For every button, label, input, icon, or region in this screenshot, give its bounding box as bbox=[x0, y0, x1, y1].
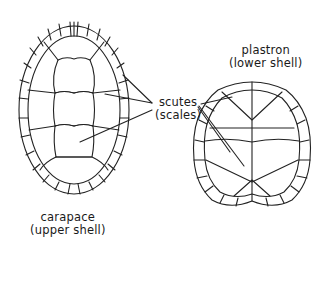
vertebral-scutes bbox=[40, 42, 108, 170]
plastron-label: plastron (lower shell) bbox=[229, 44, 302, 70]
marginal-scutes bbox=[19, 22, 129, 194]
plastron-drawing bbox=[194, 82, 311, 206]
carapace-drawing bbox=[19, 22, 129, 194]
scales-text: (scales) bbox=[155, 109, 201, 122]
costal-scutes bbox=[28, 90, 120, 130]
carapace-label: carapace (upper shell) bbox=[30, 211, 106, 237]
plastron-desc-text: (lower shell) bbox=[229, 57, 302, 70]
scutes-label: scutes (scales) bbox=[155, 96, 201, 122]
carapace-desc-text: (upper shell) bbox=[30, 224, 106, 237]
